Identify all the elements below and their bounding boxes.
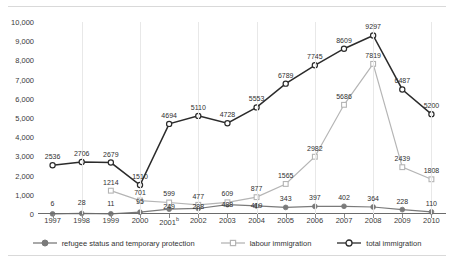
x-tick-label: 2003: [219, 216, 236, 225]
x-tick-label: 2007: [336, 216, 353, 225]
gridline-vertical: [373, 22, 374, 214]
y-tick-label: 6,000: [15, 94, 34, 103]
series-lines: [38, 22, 446, 214]
y-axis: 01,0002,0003,0004,0005,0006,0007,0008,00…: [0, 22, 34, 214]
bottom-divider: [8, 255, 446, 256]
legend-item[interactable]: total immigration: [337, 238, 421, 248]
x-tick-label: 2002: [190, 216, 207, 225]
x-tick-label: 2000: [132, 216, 149, 225]
y-tick-label: 10,000: [11, 18, 34, 27]
data-point-marker: [50, 163, 55, 168]
y-tick-label: 3,000: [15, 152, 34, 161]
y-tick-label: 4,000: [15, 133, 34, 142]
gridline-vertical: [257, 22, 258, 214]
gridline-vertical: [431, 22, 432, 214]
x-axis: 19971998199920002001b2002200320042005200…: [38, 216, 446, 230]
x-tick-label: 1998: [73, 216, 90, 225]
y-tick-label: 1,000: [15, 190, 34, 199]
gridline-vertical: [140, 22, 141, 214]
x-tick-label: 2004: [248, 216, 265, 225]
data-point-marker: [400, 87, 405, 92]
data-point-marker: [167, 200, 172, 205]
plot-area: 6281195249288488419343397402364228110121…: [38, 22, 446, 214]
data-point-marker: [283, 205, 288, 210]
data-point-marker: [167, 121, 172, 126]
x-tick-label: 2008: [365, 216, 382, 225]
y-tick-label: 0: [30, 210, 34, 219]
data-point-marker: [400, 207, 405, 212]
data-point-marker: [108, 188, 113, 193]
data-point-marker: [225, 121, 230, 126]
x-tick-label: 2009: [394, 216, 411, 225]
x-tick-label: 1997: [44, 216, 61, 225]
legend-marker-icon: [221, 238, 245, 248]
x-axis-line: [38, 213, 446, 214]
chart-figure: 01,0002,0003,0004,0005,0006,0007,0008,00…: [0, 0, 454, 263]
gridline-vertical: [198, 22, 199, 214]
y-tick-label: 2,000: [15, 171, 34, 180]
data-point-marker: [342, 102, 347, 107]
data-point-marker: [167, 207, 172, 212]
y-tick-label: 5,000: [15, 114, 34, 123]
data-point-marker: [283, 81, 288, 86]
y-tick-label: 7,000: [15, 75, 34, 84]
legend-marker-icon: [33, 238, 57, 248]
legend-label: labour immigration: [250, 239, 312, 248]
data-point-marker: [225, 200, 230, 205]
legend-item[interactable]: refugee status and temporary protection: [33, 238, 195, 248]
data-point-marker: [283, 182, 288, 187]
legend-marker-icon: [337, 238, 361, 248]
data-point-marker: [400, 165, 405, 170]
x-tick-label: 1999: [103, 216, 120, 225]
x-tick-label: 2010: [423, 216, 440, 225]
x-tick-label: 2005: [277, 216, 294, 225]
legend-item[interactable]: labour immigration: [221, 238, 312, 248]
series-line: [111, 64, 432, 205]
gridline-vertical: [315, 22, 316, 214]
gridline-vertical: [82, 22, 83, 214]
data-point-marker: [341, 46, 346, 51]
top-divider: [8, 6, 446, 7]
x-tick-label: 2006: [307, 216, 324, 225]
y-tick-label: 8,000: [15, 56, 34, 65]
data-point-marker: [342, 204, 347, 209]
chart-legend: refugee status and temporary protectionl…: [0, 236, 454, 250]
y-tick-label: 9,000: [15, 37, 34, 46]
legend-label: refugee status and temporary protection: [62, 239, 195, 248]
legend-label: total immigration: [366, 239, 421, 248]
data-point-marker: [108, 160, 113, 165]
x-tick-label: 2001b: [159, 216, 179, 227]
